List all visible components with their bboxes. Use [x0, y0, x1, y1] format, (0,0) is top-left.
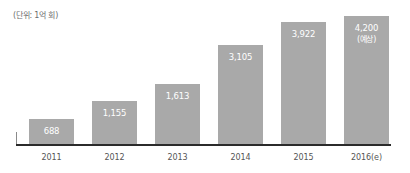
- bar-value-label: 3,922: [281, 29, 326, 39]
- plot-area: 688 2011 1,155 2012 1,613 2013 3,105 201…: [0, 0, 410, 173]
- tick-label-2012: 2012: [92, 153, 137, 162]
- bar-value-label: 3,105: [218, 52, 263, 62]
- tick-label-2011: 2011: [29, 153, 74, 162]
- bar-2015[interactable]: [281, 22, 326, 144]
- bar-value-label: 688: [29, 126, 74, 136]
- bar-value-label: 1,155: [92, 108, 137, 118]
- x-axis-baseline: [16, 144, 391, 146]
- tick-label-2016e: 2016(e): [344, 153, 389, 162]
- bar-forecast-note: (예상): [344, 33, 389, 44]
- bar-chart: (단위: 1억 회) 688 2011 1,155 2012 1,613 201…: [0, 0, 410, 173]
- bar-value-label: 1,613: [155, 91, 200, 101]
- tick-label-2014: 2014: [218, 153, 263, 162]
- tick-label-2013: 2013: [155, 153, 200, 162]
- tick-label-2015: 2015: [281, 153, 326, 162]
- bar-value-label: 4,200: [344, 23, 389, 33]
